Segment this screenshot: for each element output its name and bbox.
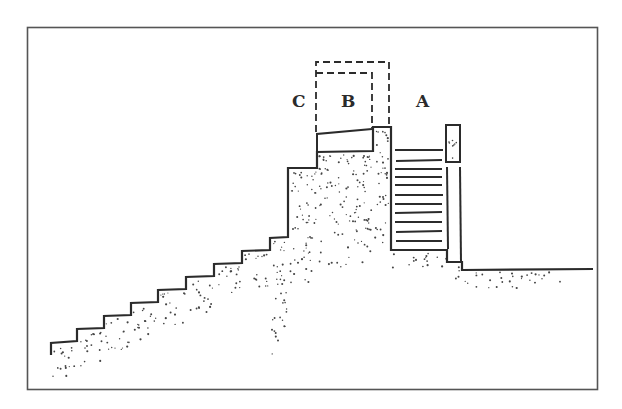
label-c: C [292,91,306,111]
pier-left-edge [447,167,448,249]
section-drawing: C B A [0,0,622,409]
figure-frame [28,28,598,390]
structure-b-slab [317,129,372,152]
label-b: B [341,91,355,111]
wall-a-courses [395,150,443,241]
stair-profile [51,127,593,355]
label-a: A [415,91,430,111]
pier-right-edge [460,167,461,262]
pier-block [446,125,460,162]
